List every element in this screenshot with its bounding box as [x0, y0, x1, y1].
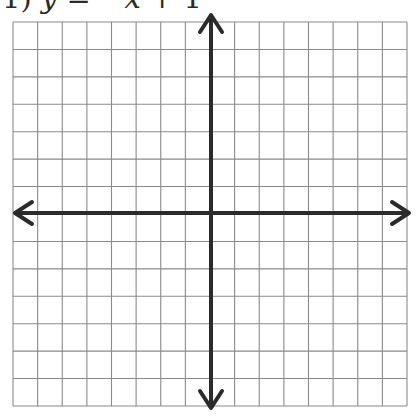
coordinate-grid — [0, 0, 416, 416]
axes — [15, 15, 409, 408]
